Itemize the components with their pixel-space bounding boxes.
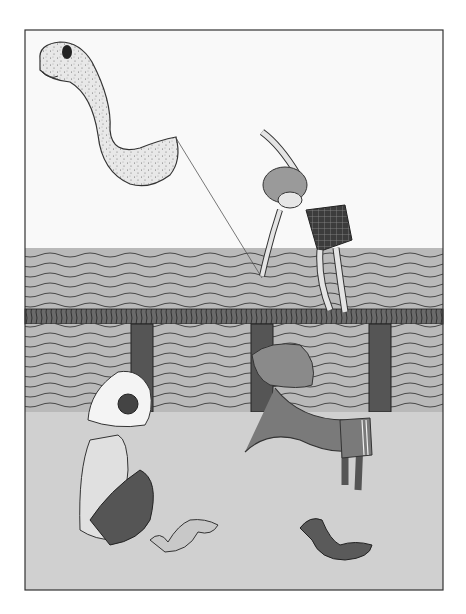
rope-rail xyxy=(25,309,443,324)
water-upper xyxy=(25,248,443,310)
illustration xyxy=(0,0,466,614)
post xyxy=(369,324,391,412)
